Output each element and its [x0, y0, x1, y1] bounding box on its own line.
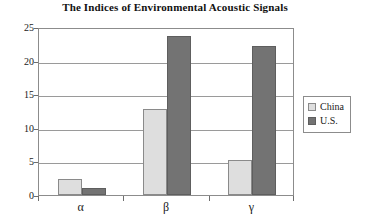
bar-china-3	[228, 160, 252, 195]
x-axis-tick-mark	[38, 196, 39, 201]
x-axis-tick-mark	[123, 196, 124, 201]
y-axis-tick-label: 25	[24, 23, 34, 33]
legend-label: China	[320, 102, 344, 112]
chart-title: The Indices of Environmental Acoustic Si…	[0, 1, 350, 13]
legend-label: U.S.	[320, 116, 338, 126]
y-axis-tick-label: 10	[24, 124, 34, 134]
x-axis-tick-label: α	[61, 200, 101, 215]
chart-figure: The Indices of Environmental Acoustic Si…	[0, 0, 370, 223]
bar-us-2	[167, 36, 191, 195]
legend-item[interactable]: U.S.	[308, 114, 346, 128]
bar-us-1	[82, 188, 106, 195]
bar-china-2	[143, 109, 167, 195]
legend-swatch-icon	[308, 103, 316, 111]
plot-area	[38, 28, 294, 196]
bar-us-3	[252, 46, 276, 195]
x-axis-tick-mark	[209, 196, 210, 201]
x-axis-tick-label: γ	[231, 200, 271, 215]
y-axis-tick-label: 15	[24, 90, 34, 100]
x-axis-tick-mark	[293, 196, 294, 201]
y-axis: 0510152025	[0, 0, 34, 223]
legend-item[interactable]: China	[308, 100, 346, 114]
legend-swatch-icon	[308, 117, 316, 125]
x-axis-tick-label: β	[146, 200, 186, 215]
bar-china-1	[58, 179, 82, 195]
chart-legend: ChinaU.S.	[303, 96, 351, 133]
y-axis-tick-label: 20	[24, 57, 34, 67]
